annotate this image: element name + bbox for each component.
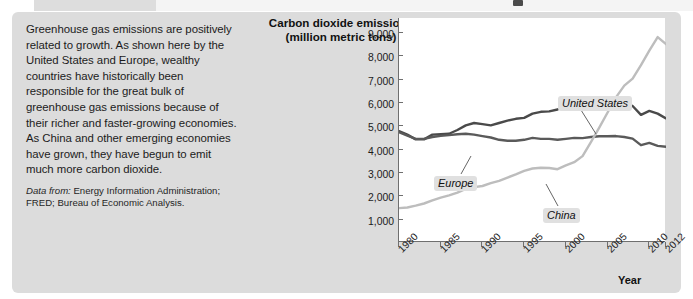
callout-china: China (543, 208, 580, 223)
plot-lines (399, 18, 666, 242)
y-axis-tick-label: 5,000 (368, 122, 394, 133)
y-axis-tick-mark (398, 125, 403, 126)
x-axis-title: Year (618, 274, 641, 286)
y-axis-tick-label: 8,000 (368, 52, 394, 63)
y-axis-labels: 9,0008,0007,0006,0005,0004,0003,0002,000… (322, 18, 394, 242)
figure-header-strip (0, 0, 693, 11)
y-axis-tick-label: 1,000 (368, 215, 394, 226)
y-axis-tick-label: 2,000 (368, 192, 394, 203)
y-axis-tick-mark (398, 195, 403, 196)
y-axis-tick-mark (398, 219, 403, 220)
y-axis-tick-mark (398, 149, 403, 150)
y-axis-tick-mark (398, 79, 403, 80)
header-rule (156, 0, 693, 11)
chart: Carbon dioxide emissions (million metric… (246, 16, 676, 282)
header-mark-icon (513, 0, 523, 6)
header-tab (34, 0, 156, 11)
y-axis-tick-mark (398, 102, 403, 103)
y-axis-tick-label: 9,000 (368, 29, 394, 40)
y-axis-tick-label: 4,000 (368, 145, 394, 156)
y-axis-tick-label: 3,000 (368, 169, 394, 180)
y-axis-tick-mark (398, 32, 403, 33)
plot-area (398, 18, 665, 242)
y-axis-tick-label: 6,000 (368, 99, 394, 110)
y-axis-tick-mark (398, 55, 403, 56)
figure-caption-column: Greenhouse gas emissions are positively … (26, 22, 240, 210)
source-label: Data from: (26, 185, 71, 196)
caption-paragraph: Greenhouse gas emissions are positively … (26, 22, 240, 178)
callout-europe: Europe (434, 176, 477, 191)
y-axis-tick-mark (398, 172, 403, 173)
figure-container: Greenhouse gas emissions are positively … (0, 0, 693, 299)
y-axis-tick-label: 7,000 (368, 75, 394, 86)
callout-united-states: United States (558, 96, 632, 111)
caption-source: Data from: Energy Information Administra… (26, 185, 240, 210)
